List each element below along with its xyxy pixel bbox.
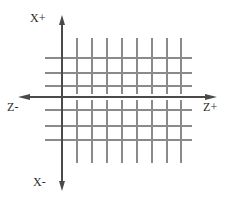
axis-arrowheads: [18, 15, 217, 191]
axes-grid-graphic: [0, 0, 233, 204]
axis-label-z-negative: Z-: [7, 101, 19, 113]
axis-label-x-negative: X-: [33, 176, 46, 188]
grid-vertical-lines: [77, 38, 181, 163]
arrow-up-icon: [59, 15, 65, 25]
axis-label-x-positive: X+: [30, 12, 46, 24]
axis-label-z-positive: Z+: [203, 101, 218, 113]
arrow-left-icon: [18, 94, 30, 100]
grid-horizontal-lines: [45, 58, 192, 140]
arrow-down-icon: [59, 181, 65, 191]
coordinate-axes-diagram: X+ X- Z- Z+: [0, 0, 233, 204]
